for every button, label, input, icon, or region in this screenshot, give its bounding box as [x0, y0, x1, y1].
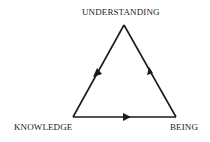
node-being: BEING	[170, 122, 198, 132]
arrow-right-icon	[123, 113, 131, 121]
node-understanding: UNDERSTANDING	[82, 7, 160, 17]
triangle-diagram	[0, 0, 210, 142]
node-knowledge: KNOWLEDGE	[14, 122, 72, 132]
arrow-down-icon	[93, 68, 102, 77]
